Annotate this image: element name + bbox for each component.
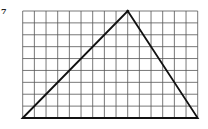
apex-point bbox=[126, 10, 129, 13]
triangle bbox=[23, 11, 198, 118]
grid-lines bbox=[23, 11, 198, 118]
triangle-on-grid-figure bbox=[0, 0, 208, 129]
